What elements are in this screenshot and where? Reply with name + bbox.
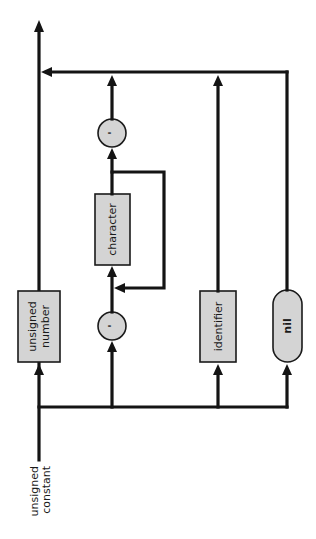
arrow-up-icon (213, 75, 223, 86)
arrow-up-icon (282, 364, 292, 375)
merge-arrow-icon (41, 67, 52, 77)
exit-arrow-icon (34, 20, 44, 32)
node-identifier-label: identifier (212, 301, 225, 351)
node-unsigned-number-line2: number (39, 305, 52, 348)
node-nil-label: nil (281, 318, 294, 333)
node-unsigned-number-line1: unsigned (26, 301, 39, 351)
node-quote-close-symbol: ' (106, 131, 119, 134)
node-character-label: character (106, 203, 119, 256)
top-bus (41, 67, 287, 77)
main-trunk (34, 20, 44, 460)
arrow-left-icon (114, 283, 125, 293)
branch-unsigned-number: unsigned number (18, 291, 60, 375)
node-quote-open-symbol: ' (106, 324, 119, 327)
arrow-up-icon (107, 341, 117, 352)
arrow-up-icon (107, 148, 117, 159)
syntax-diagram-unsigned-constant: unsigned number ' character ' identifier (0, 0, 316, 539)
branch-identifier: identifier (200, 75, 236, 407)
arrow-up-icon (107, 75, 117, 86)
entry-label: unsigned constant (28, 465, 53, 516)
entry-label-line2: constant (40, 465, 53, 514)
arrow-up-icon (107, 266, 117, 277)
arrow-up-icon (34, 364, 44, 375)
branch-nil: nil (273, 72, 302, 407)
branch-character-string: ' character ' (95, 75, 164, 407)
arrow-up-icon (213, 364, 223, 375)
